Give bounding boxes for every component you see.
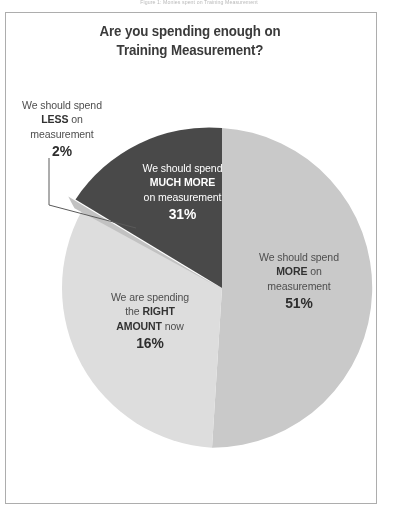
slice-label-more-line-2: MORE on [246, 264, 352, 278]
slice-label-right-amount-line-1: We are spending [89, 290, 211, 304]
slice-label-less-line-3: measurement [7, 127, 117, 141]
slice-label-right-amount: We are spending the RIGHT AMOUNT now 16% [89, 290, 211, 353]
slice-label-much-more-line-1: We should spend [126, 161, 239, 175]
slice-label-right-amount-emphasis-2: AMOUNT [116, 320, 162, 332]
slice-label-less-emphasis: LESS [41, 113, 68, 125]
slice-label-much-more-line-2: MUCH MORE [126, 175, 239, 189]
slice-label-right-amount-line-3: AMOUNT now [89, 319, 211, 333]
slice-label-right-amount-line-3-tail: now [162, 320, 184, 332]
slice-label-more-emphasis: MORE [276, 265, 307, 277]
slice-label-right-amount-line-2: the RIGHT [89, 304, 211, 318]
slice-label-more-line-1: We should spend [246, 250, 352, 264]
slice-label-more-line-2-tail: on [307, 265, 321, 277]
slice-value-much-more: 31% [126, 205, 239, 224]
slice-value-less: 2% [7, 142, 117, 161]
slice-label-less-line-2-tail: on [68, 113, 82, 125]
slice-label-less-line-1: We should spend [7, 98, 117, 112]
slice-label-much-more: We should spend MUCH MORE on measurement… [126, 161, 239, 224]
slice-label-less-line-2: LESS on [7, 112, 117, 126]
slice-label-more-line-3: measurement [246, 279, 352, 293]
slice-label-much-more-line-3: on measurement [126, 190, 239, 204]
slice-label-right-amount-line-2-lead: the [125, 305, 142, 317]
slice-value-more: 51% [246, 294, 352, 313]
slice-label-less: We should spend LESS on measurement 2% [7, 98, 117, 161]
slice-value-right-amount: 16% [89, 334, 211, 353]
slice-label-much-more-emphasis: MUCH MORE [150, 176, 215, 188]
slice-label-more: We should spend MORE on measurement 51% [246, 250, 352, 313]
slice-label-right-amount-emphasis-1: RIGHT [142, 305, 174, 317]
